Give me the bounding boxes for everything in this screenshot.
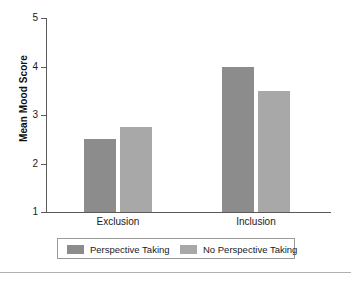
bar [258, 91, 290, 212]
footer-divider [0, 272, 351, 273]
plot-area: Mean Mood Score 12345 ExclusionInclusion [0, 0, 351, 232]
y-axis-tick-label: 2 [8, 159, 38, 169]
legend-item-no-perspective-taking: No Perspective Taking [180, 243, 297, 255]
x-axis-tick-label: Inclusion [206, 216, 306, 228]
y-axis-tick-mark [41, 115, 46, 116]
chart-legend: Perspective Taking No Perspective Taking [57, 238, 295, 259]
bar [222, 67, 254, 213]
y-axis-title: Mean Mood Score [18, 29, 29, 169]
x-axis-line [46, 212, 331, 213]
legend-item-label: No Perspective Taking [203, 244, 297, 255]
y-axis-line [46, 18, 47, 213]
y-axis-tick-mark [41, 164, 46, 165]
x-axis-tick-label: Exclusion [68, 216, 168, 228]
y-axis-tick-mark [41, 212, 46, 213]
legend-swatch-icon [180, 245, 197, 254]
legend-item-perspective-taking: Perspective Taking [67, 243, 170, 255]
y-axis-tick-label: 1 [8, 207, 38, 217]
y-axis-tick-label: 4 [8, 62, 38, 72]
legend-swatch-icon [67, 245, 84, 254]
y-axis-tick-label: 3 [8, 110, 38, 120]
bar [120, 127, 152, 212]
bar [84, 139, 116, 212]
legend-item-label: Perspective Taking [90, 244, 170, 255]
y-axis-tick-mark [41, 18, 46, 19]
y-axis-tick-mark [41, 67, 46, 68]
chart-figure: Mean Mood Score 12345 ExclusionInclusion… [0, 0, 351, 282]
y-axis-tick-label: 5 [8, 13, 38, 23]
